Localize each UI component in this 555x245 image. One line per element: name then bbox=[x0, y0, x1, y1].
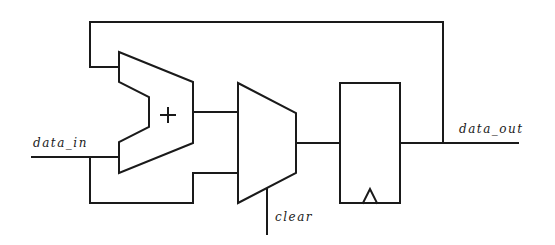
adder-block bbox=[119, 52, 193, 173]
data-in-branch-wire bbox=[90, 157, 238, 203]
register-block bbox=[340, 83, 400, 203]
data-in-label: data_in bbox=[33, 136, 88, 150]
clear-label: clear bbox=[275, 210, 313, 224]
data-out-label: data_out bbox=[459, 122, 524, 136]
mux-block bbox=[238, 83, 296, 203]
